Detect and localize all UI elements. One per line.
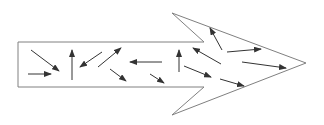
small-arrows-group <box>28 28 286 86</box>
block-arrow-diagram <box>0 0 324 125</box>
small-arrow-1 <box>31 50 59 71</box>
small-arrow-8 <box>150 74 164 83</box>
small-arrow-13 <box>184 66 211 77</box>
diagram-canvas <box>0 0 324 125</box>
block-arrow-outline <box>18 13 306 115</box>
small-arrow-11 <box>193 48 221 64</box>
small-arrow-6 <box>110 69 126 81</box>
small-arrow-4 <box>80 52 102 67</box>
small-arrow-15 <box>220 79 244 86</box>
small-arrow-12 <box>227 49 261 52</box>
small-arrow-14 <box>242 62 286 68</box>
small-arrow-5 <box>98 48 121 67</box>
